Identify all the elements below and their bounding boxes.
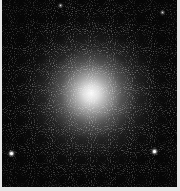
bright-star: [10, 152, 13, 155]
image-frame: [0, 0, 180, 191]
cluster-core-glow: [2, 0, 177, 187]
bright-star: [153, 150, 156, 153]
bright-star: [60, 5, 61, 6]
bright-star: [162, 12, 163, 13]
star-cluster-photo: [2, 0, 177, 187]
